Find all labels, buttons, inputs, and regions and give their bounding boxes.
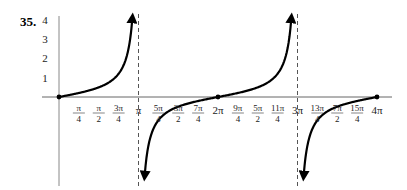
- x-tick-label: 5π: [154, 103, 164, 113]
- x-tick-label: 2π: [212, 104, 224, 116]
- x-tick-label: 11π: [271, 103, 285, 113]
- svg-text:4: 4: [275, 114, 280, 124]
- y-tick-label: 2: [42, 52, 48, 64]
- svg-text:4: 4: [196, 114, 201, 124]
- svg-text:2: 2: [176, 114, 181, 124]
- tick-labels: 1234π4π23π4π5π43π27π42π9π45π211π43π13π47…: [42, 14, 383, 124]
- curve-branch-1: [59, 18, 132, 97]
- asymptotes: [139, 14, 298, 186]
- axes: [42, 16, 392, 186]
- y-tick-label: 1: [42, 72, 48, 84]
- x-tick-label: 3π: [292, 104, 304, 116]
- zero-point: [57, 95, 62, 100]
- x-tick-label: 7π: [333, 103, 343, 113]
- x-tick-label: π: [96, 103, 101, 113]
- x-tick-label: 9π: [233, 103, 243, 113]
- svg-text:2: 2: [335, 114, 340, 124]
- svg-text:4: 4: [116, 114, 121, 124]
- x-tick-label: 4π: [371, 104, 383, 116]
- svg-text:4: 4: [236, 114, 241, 124]
- x-tick-label: 3π: [114, 103, 124, 113]
- svg-text:4: 4: [156, 114, 161, 124]
- x-tick-label: 3π: [174, 103, 184, 113]
- y-tick-label: 3: [42, 33, 48, 45]
- x-tick-label: 7π: [194, 103, 204, 113]
- svg-text:4: 4: [77, 114, 82, 124]
- x-tick-label: 13π: [311, 103, 325, 113]
- y-tick-label: 4: [42, 14, 48, 26]
- svg-text:4: 4: [315, 114, 320, 124]
- svg-text:2: 2: [256, 114, 261, 124]
- zero-point: [216, 95, 221, 100]
- x-tick-label: 15π: [350, 103, 364, 113]
- svg-text:2: 2: [97, 114, 102, 124]
- x-tick-label: 5π: [253, 103, 263, 113]
- svg-text:4: 4: [355, 114, 360, 124]
- zero-point: [375, 95, 380, 100]
- tangent-graph: 1234π4π23π4π5π43π27π42π9π45π211π43π13π47…: [0, 0, 407, 190]
- x-tick-label: π: [77, 103, 82, 113]
- x-tick-label: π: [136, 104, 142, 116]
